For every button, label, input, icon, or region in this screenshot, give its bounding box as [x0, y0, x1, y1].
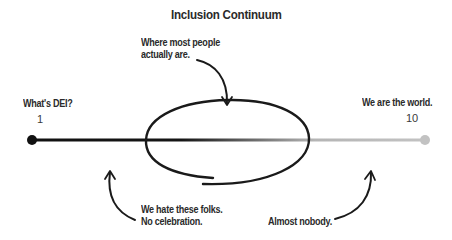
end-dot-icon [420, 135, 430, 145]
bottom-right-annotation: Almost nobody. [268, 215, 332, 227]
bottom-left-arrow-icon [109, 172, 135, 220]
top-annotation-line2: actually are. [141, 48, 190, 60]
scale-min-label: 1 [37, 113, 43, 125]
bottom-left-annotation-line1: We hate these folks. [141, 203, 222, 215]
left-caption: What's DEI? [23, 97, 72, 109]
right-caption: We are the world. [362, 96, 432, 108]
majority-ellipse [146, 100, 309, 184]
top-annotation-line1: Where most people [141, 36, 220, 48]
bottom-left-annotation-line2: No celebration. [141, 215, 202, 227]
start-dot-icon [27, 135, 37, 145]
continuum-diagram [0, 0, 452, 240]
scale-max-label: 10 [406, 112, 418, 124]
